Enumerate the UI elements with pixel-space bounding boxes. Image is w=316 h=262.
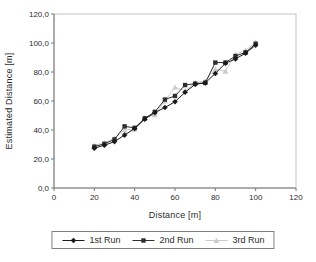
y-tick-label: 120,0 bbox=[29, 10, 50, 19]
legend-entry-2nd-run: 2nd Run bbox=[131, 235, 193, 245]
data-point-1st-run bbox=[122, 132, 128, 138]
x-tick-label: 40 bbox=[130, 193, 139, 202]
x-tick-label: 0 bbox=[52, 193, 57, 202]
x-tick-label: 60 bbox=[171, 193, 180, 202]
y-tick-label: 100,0 bbox=[29, 39, 50, 48]
legend-marker-triangle-icon bbox=[205, 236, 229, 245]
legend-marker-diamond-icon bbox=[61, 236, 85, 245]
legend-entry-1st-run: 1st Run bbox=[61, 235, 120, 245]
y-tick-label: 60,0 bbox=[33, 97, 49, 106]
legend-label-1st-run: 1st Run bbox=[89, 235, 120, 245]
chart-figure: 0204060801001200,020,040,060,080,0100,01… bbox=[0, 0, 316, 262]
x-tick-label: 80 bbox=[211, 193, 220, 202]
data-point-2nd-run bbox=[213, 60, 217, 64]
y-tick-label: 20,0 bbox=[33, 155, 49, 164]
data-point-2nd-run bbox=[183, 83, 187, 87]
legend-entry-3rd-run: 3rd Run bbox=[205, 235, 265, 245]
x-tick-label: 20 bbox=[90, 193, 99, 202]
x-axis-title: Distance [m] bbox=[149, 210, 201, 220]
x-tick-label: 120 bbox=[289, 193, 303, 202]
y-axis-title: Estimated Distance [m] bbox=[4, 53, 14, 150]
square-marker-icon bbox=[141, 238, 145, 242]
y-tick-label: 0,0 bbox=[38, 184, 50, 193]
legend: 1st Run 2nd Run 3rd Run bbox=[51, 231, 274, 249]
diamond-marker-icon bbox=[71, 237, 77, 243]
legend-label-3rd-run: 3rd Run bbox=[233, 235, 265, 245]
data-point-3rd-run bbox=[172, 84, 178, 89]
y-tick-label: 40,0 bbox=[33, 126, 49, 135]
y-tick-label: 80,0 bbox=[33, 68, 49, 77]
legend-label-2nd-run: 2nd Run bbox=[159, 235, 193, 245]
data-point-2nd-run bbox=[173, 94, 177, 98]
data-point-2nd-run bbox=[163, 97, 167, 101]
data-point-2nd-run bbox=[122, 124, 126, 128]
legend-marker-square-icon bbox=[131, 236, 155, 245]
data-point-1st-run bbox=[162, 105, 168, 111]
line-chart-canvas: 0204060801001200,020,040,060,080,0100,01… bbox=[0, 0, 316, 262]
x-tick-label: 100 bbox=[249, 193, 263, 202]
